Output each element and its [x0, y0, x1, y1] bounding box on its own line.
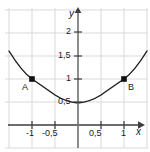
x-tick-label-1: 1	[121, 129, 126, 138]
y-tick-label-1: 1	[66, 74, 71, 83]
y-tick-label-2: 2	[66, 27, 71, 36]
x-tick-label-neg1: -1	[26, 129, 34, 138]
x-tick-label-neg0-5: -0,5	[42, 129, 58, 138]
coordinate-plot-figure: -1 -0,5 0,5 1 0,5 1 1,5 2 y x A B	[0, 0, 150, 152]
point-a-label: A	[22, 83, 28, 92]
y-tick-label-1-5: 1,5	[58, 51, 71, 60]
y-tick-label-0-5: 0,5	[58, 97, 71, 106]
point-a-marker	[29, 76, 35, 82]
y-axis	[74, 7, 82, 148]
plot-canvas	[0, 0, 150, 152]
y-axis-label: y	[69, 9, 74, 19]
point-b-marker	[121, 76, 127, 82]
x-axis-label: x	[136, 127, 141, 137]
point-b-label: B	[128, 83, 134, 92]
x-tick-label-0-5: 0,5	[89, 129, 102, 138]
